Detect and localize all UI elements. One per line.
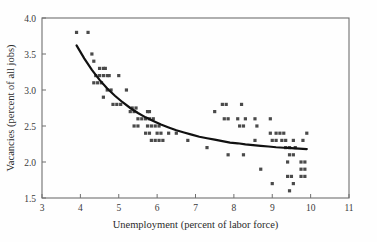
scatter-marker bbox=[299, 175, 302, 178]
scatter-marker bbox=[269, 132, 272, 135]
scatter-marker bbox=[236, 117, 239, 120]
scatter-points bbox=[75, 31, 308, 193]
scatter-marker bbox=[274, 139, 277, 142]
fitted-curve bbox=[77, 45, 307, 149]
scatter-marker bbox=[156, 132, 159, 135]
scatter-marker bbox=[102, 74, 105, 77]
scatter-marker bbox=[146, 124, 149, 127]
x-axis-ticks: 34567891011 bbox=[40, 194, 354, 213]
scatter-marker bbox=[259, 168, 262, 171]
scatter-marker bbox=[288, 189, 291, 192]
scatter-marker bbox=[223, 117, 226, 120]
x-tick-label: 7 bbox=[193, 203, 198, 213]
scatter-marker bbox=[278, 132, 281, 135]
scatter-marker bbox=[154, 139, 157, 142]
scatter-marker bbox=[133, 124, 136, 127]
scatter-marker bbox=[271, 182, 274, 185]
scatter-marker bbox=[280, 139, 283, 142]
scatter-marker bbox=[98, 67, 101, 70]
scatter-marker bbox=[303, 175, 306, 178]
scatter-marker bbox=[286, 160, 289, 163]
scatter-marker bbox=[90, 52, 93, 55]
scatter-marker bbox=[205, 146, 208, 149]
scatter-marker bbox=[167, 132, 170, 135]
scatter-marker bbox=[244, 117, 247, 120]
scatter-marker bbox=[221, 103, 224, 106]
x-tick-label: 5 bbox=[116, 203, 121, 213]
scatter-marker bbox=[86, 31, 89, 34]
scatter-marker bbox=[159, 132, 162, 135]
plot-frame bbox=[42, 18, 349, 198]
scatter-marker bbox=[136, 117, 139, 120]
scatter-marker bbox=[292, 182, 295, 185]
scatter-marker bbox=[186, 139, 189, 142]
scatter-marker bbox=[253, 139, 256, 142]
scatter-marker bbox=[125, 88, 128, 91]
scatter-marker bbox=[115, 103, 118, 106]
scatter-marker bbox=[148, 132, 151, 135]
scatter-marker bbox=[150, 124, 153, 127]
chart-figure: 34567891011 1.52.02.53.03.54.0 Unemploym… bbox=[0, 0, 377, 242]
scatter-marker bbox=[213, 110, 216, 113]
axis-titles: Unemployment (percent of labor force)Vac… bbox=[5, 44, 279, 231]
scatter-marker bbox=[303, 168, 306, 171]
scatter-marker bbox=[227, 153, 230, 156]
scatter-marker bbox=[96, 81, 99, 84]
scatter-marker bbox=[157, 139, 160, 142]
x-tick-label: 4 bbox=[78, 203, 83, 213]
scatter-marker bbox=[282, 132, 285, 135]
scatter-marker bbox=[102, 96, 105, 99]
y-tick-label: 2.0 bbox=[24, 158, 36, 168]
scatter-marker bbox=[290, 175, 293, 178]
scatter-marker bbox=[284, 139, 287, 142]
scatter-marker bbox=[299, 168, 302, 171]
scatter-marker bbox=[225, 103, 228, 106]
y-tick-label: 1.5 bbox=[24, 194, 36, 204]
scatter-marker bbox=[108, 74, 111, 77]
scatter-marker bbox=[299, 160, 302, 163]
scatter-marker bbox=[303, 160, 306, 163]
x-tick-label: 10 bbox=[306, 203, 316, 213]
scatter-marker bbox=[242, 124, 245, 127]
x-axis-title: Unemployment (percent of labor force) bbox=[113, 219, 279, 231]
x-tick-label: 8 bbox=[232, 203, 237, 213]
scatter-marker bbox=[140, 117, 143, 120]
scatter-marker bbox=[301, 139, 304, 142]
scatter-marker bbox=[148, 110, 151, 113]
scatter-marker bbox=[269, 117, 272, 120]
scatter-marker bbox=[255, 124, 258, 127]
scatter-marker bbox=[238, 124, 241, 127]
y-tick-label: 2.5 bbox=[24, 122, 36, 132]
x-tick-label: 9 bbox=[270, 203, 275, 213]
curve-path bbox=[77, 45, 307, 149]
scatter-marker bbox=[240, 103, 243, 106]
scatter-marker bbox=[175, 132, 178, 135]
scatter-marker bbox=[144, 132, 147, 135]
scatter-marker bbox=[136, 124, 139, 127]
scatter-marker bbox=[117, 74, 120, 77]
scatter-marker bbox=[111, 103, 114, 106]
y-axis-title: Vacancies (percent of all jobs) bbox=[5, 44, 17, 172]
scatter-marker bbox=[286, 175, 289, 178]
y-tick-label: 4.0 bbox=[24, 14, 36, 24]
scatter-marker bbox=[150, 139, 153, 142]
scatter-marker bbox=[129, 110, 132, 113]
scatter-marker bbox=[274, 132, 277, 135]
scatter-marker bbox=[292, 139, 295, 142]
beveridge-curve-chart: 34567891011 1.52.02.53.03.54.0 Unemploym… bbox=[0, 0, 377, 242]
scatter-marker bbox=[92, 81, 95, 84]
scatter-marker bbox=[227, 117, 230, 120]
x-tick-label: 6 bbox=[155, 203, 160, 213]
scatter-marker bbox=[292, 153, 295, 156]
scatter-marker bbox=[253, 117, 256, 120]
x-tick-label: 11 bbox=[344, 203, 353, 213]
scatter-marker bbox=[161, 139, 164, 142]
scatter-marker bbox=[271, 139, 274, 142]
scatter-marker bbox=[75, 31, 78, 34]
scatter-marker bbox=[242, 153, 245, 156]
scatter-marker bbox=[104, 67, 107, 70]
y-tick-label: 3.0 bbox=[24, 86, 36, 96]
scatter-marker bbox=[134, 106, 137, 109]
scatter-marker bbox=[92, 60, 95, 63]
y-axis-ticks: 1.52.02.53.03.54.0 bbox=[24, 14, 46, 204]
